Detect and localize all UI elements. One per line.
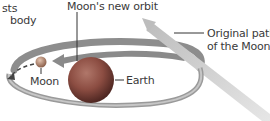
partial-label-line2: body [10,14,36,27]
earth-label: Earth [126,74,155,87]
moon-label: Moon [30,75,59,88]
original-path-label-line1: Original path [207,27,270,40]
orbit-diagram [0,0,270,121]
moon-sphere [36,57,47,68]
new-orbit-arrow [52,54,185,68]
new-orbit-label: Moon's new orbit [67,0,158,13]
earth-sphere [68,57,114,103]
original-path-label-line2: of the Moon [207,40,270,53]
